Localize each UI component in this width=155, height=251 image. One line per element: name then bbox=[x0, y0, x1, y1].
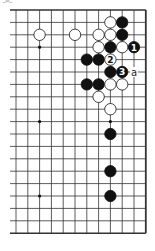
black-stone-disc bbox=[117, 29, 128, 40]
white-stone-disc bbox=[105, 17, 116, 28]
white-stone bbox=[117, 42, 128, 53]
star-point bbox=[38, 46, 41, 49]
black-stone bbox=[105, 42, 116, 53]
white-stone bbox=[117, 79, 128, 90]
white-stone bbox=[93, 29, 104, 40]
black-stone-disc bbox=[117, 17, 128, 28]
star-point bbox=[38, 194, 41, 197]
black-stone bbox=[105, 66, 116, 77]
star-point bbox=[109, 120, 112, 123]
white-stone-disc bbox=[105, 79, 116, 90]
white-stone bbox=[34, 29, 45, 40]
white-stone-disc bbox=[105, 104, 116, 115]
black-stone bbox=[117, 29, 128, 40]
black-stone-disc bbox=[93, 54, 104, 65]
go-board: a 123 bbox=[0, 0, 155, 251]
white-stone bbox=[69, 29, 80, 40]
black-stone bbox=[93, 54, 104, 65]
point-labels: a bbox=[130, 67, 138, 78]
black-stone bbox=[81, 54, 92, 65]
black-stone-disc bbox=[105, 190, 116, 201]
black-stone-disc bbox=[105, 166, 116, 177]
white-stone-disc bbox=[69, 29, 80, 40]
white-stone: 2 bbox=[105, 54, 116, 65]
black-stone-disc bbox=[105, 42, 116, 53]
black-stone-disc bbox=[105, 66, 116, 77]
black-stone-disc bbox=[81, 54, 92, 65]
white-stone bbox=[93, 42, 104, 53]
black-stone bbox=[93, 79, 104, 90]
move-number-3: 3 bbox=[119, 67, 125, 77]
white-stone-disc bbox=[93, 91, 104, 102]
black-stone bbox=[105, 166, 116, 177]
black-stone-disc bbox=[105, 128, 116, 139]
white-stone-disc bbox=[117, 42, 128, 53]
point-label-a: a bbox=[131, 67, 137, 78]
black-stone bbox=[81, 79, 92, 90]
white-stone bbox=[105, 79, 116, 90]
white-stone bbox=[105, 29, 116, 40]
black-stone: 1 bbox=[128, 42, 139, 53]
black-stone-disc bbox=[81, 79, 92, 90]
white-stone bbox=[105, 17, 116, 28]
move-number-2: 2 bbox=[107, 55, 113, 65]
black-stone bbox=[105, 190, 116, 201]
black-stone bbox=[105, 128, 116, 139]
black-stone: 3 bbox=[117, 66, 128, 77]
black-stone-disc bbox=[93, 79, 104, 90]
white-stone-disc bbox=[117, 79, 128, 90]
white-stone bbox=[93, 91, 104, 102]
white-stone-disc bbox=[93, 29, 104, 40]
black-stone bbox=[117, 17, 128, 28]
white-stone-disc bbox=[34, 29, 45, 40]
move-number-1: 1 bbox=[131, 43, 137, 53]
white-stone bbox=[105, 104, 116, 115]
white-stone-disc bbox=[105, 29, 116, 40]
star-point bbox=[38, 120, 41, 123]
white-stone-disc bbox=[93, 42, 104, 53]
